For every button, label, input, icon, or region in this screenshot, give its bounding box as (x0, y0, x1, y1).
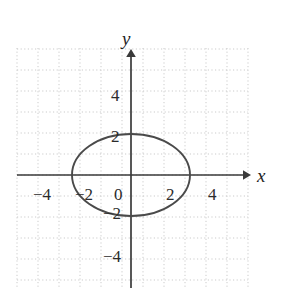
x-axis-label: x (257, 166, 265, 185)
x-tick-label-4: 4 (208, 186, 217, 203)
y-tick-label-2: 2 (111, 128, 120, 145)
x-tick-label-minus-4: −4 (33, 186, 51, 203)
y-tick-label-4: 4 (111, 87, 120, 104)
x-axis (17, 170, 251, 180)
y-tick-label-minus-4: −4 (103, 248, 121, 265)
grid-vertical-lines (17, 48, 248, 288)
grid-horizontal-lines (17, 49, 248, 280)
x-tick-label-minus-2: −2 (75, 186, 93, 203)
x-tick-label-zero: 0 (114, 186, 123, 203)
graph-figure: −4 −2 0 2 4 4 2 −2 −4 x y (0, 0, 282, 303)
x-tick-label-2: 2 (166, 186, 175, 203)
y-axis-label: y (122, 29, 130, 48)
y-axis (126, 49, 136, 288)
y-tick-label-minus-2: −2 (103, 205, 121, 222)
coordinate-plane (0, 0, 282, 303)
x-axis-arrow-icon (243, 170, 251, 180)
y-axis-arrow-icon (126, 49, 136, 57)
